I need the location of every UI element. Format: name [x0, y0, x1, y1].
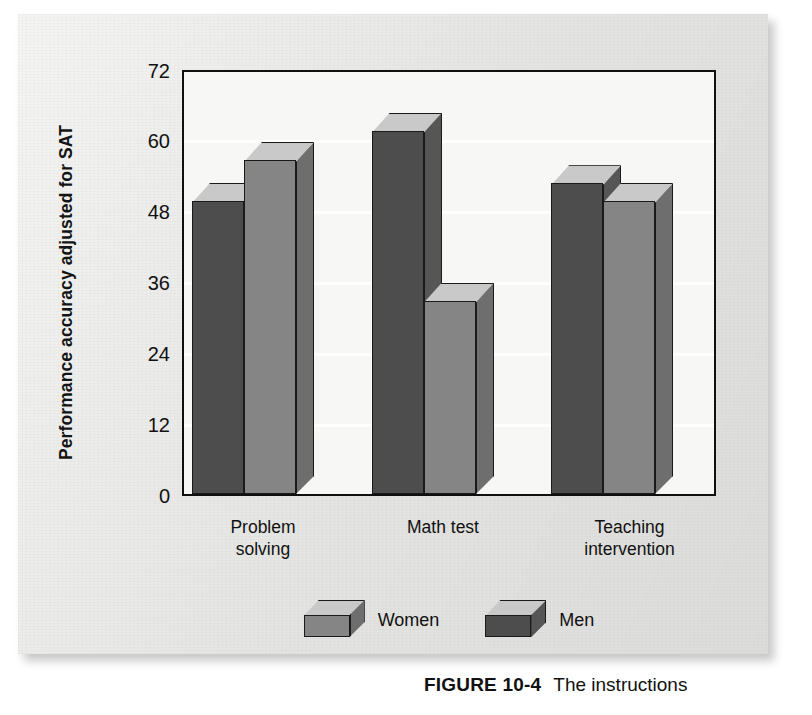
- legend-item-men[interactable]: Men: [485, 600, 594, 640]
- bar-front-face: [244, 160, 296, 494]
- bar-side-face: [296, 142, 314, 494]
- bar-front-face: [372, 131, 424, 494]
- bar-side-face: [476, 283, 494, 494]
- bar-teaching-intervention-women: [603, 183, 673, 494]
- legend-label-women: Women: [378, 610, 440, 631]
- legend-swatch-men-icon: [485, 600, 547, 640]
- bar-front-face: [192, 201, 244, 494]
- legend: Women Men: [182, 600, 716, 640]
- bar-front-face: [424, 301, 476, 494]
- legend-swatch-front-face: [304, 615, 350, 637]
- category-label-problem-solving: Problem solving: [188, 516, 338, 561]
- bar-front-face: [551, 183, 603, 494]
- category-label-math-test: Math test: [368, 516, 518, 538]
- legend-item-women[interactable]: Women: [304, 600, 440, 640]
- bar-front-face: [603, 201, 655, 494]
- legend-swatch-front-face: [485, 615, 531, 637]
- figure-caption-text: The instructions: [553, 674, 687, 695]
- figure-number: FIGURE 10-4: [424, 674, 541, 695]
- legend-label-men: Men: [559, 610, 594, 631]
- bar-math-test-women: [424, 283, 494, 494]
- figure-caption: FIGURE 10-4The instructions: [424, 674, 687, 696]
- figure-page: Performance accuracy adjusted for SAT 0 …: [0, 0, 812, 715]
- legend-swatch-women-icon: [304, 600, 366, 640]
- bar-problem-solving-women: [244, 142, 314, 494]
- y-axis-title: Performance accuracy adjusted for SAT: [56, 40, 77, 460]
- category-label-teaching-intervention: Teaching intervention: [547, 516, 712, 561]
- bar-side-face: [655, 183, 673, 494]
